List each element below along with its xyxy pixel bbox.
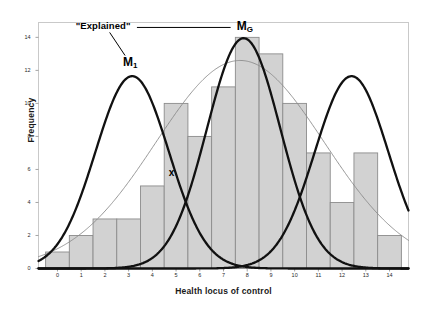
y-tick-label: 6 [15, 166, 31, 172]
histogram-bar [164, 103, 188, 268]
y-tick-label: 4 [15, 199, 31, 205]
x-tick-label: 4 [145, 272, 159, 278]
x-tick-label: 2 [98, 272, 112, 278]
y-tick-label: 10 [15, 100, 31, 106]
histogram-bar [140, 186, 164, 269]
mg-annotation-subscript: G [247, 25, 253, 34]
y-tick-label: 8 [15, 133, 31, 139]
x-tick-label: 7 [217, 272, 231, 278]
chart-canvas [0, 0, 428, 309]
x-tick-label: 14 [383, 272, 397, 278]
x-tick-label: 12 [335, 272, 349, 278]
x-tick-label: 0 [50, 272, 64, 278]
x-tick-label: 11 [311, 272, 325, 278]
histogram-bar [93, 219, 117, 269]
histogram-bar [330, 202, 354, 268]
chart-figure: Frequency Health locus of control 024681… [0, 0, 428, 309]
m1-annotation: M1 [123, 55, 137, 69]
explained-annotation: "Explained" [76, 20, 131, 31]
mg-annotation: MG [237, 19, 253, 33]
x-axis-label: Health locus of control [38, 286, 409, 296]
x-tick-label: 13 [359, 272, 373, 278]
y-axis-label: Frequency [26, 75, 36, 165]
histogram-bar [69, 235, 93, 268]
x-tick-label: 5 [169, 272, 183, 278]
mg-annotation-text: M [237, 19, 247, 33]
histogram-bar [117, 219, 141, 269]
x-marker-annotation: x [169, 167, 175, 178]
x-tick-label: 6 [193, 272, 207, 278]
x-tick-label: 9 [264, 272, 278, 278]
m1-annotation-text: M [123, 55, 133, 69]
histogram-bar [235, 37, 259, 268]
histogram-bar [378, 235, 402, 268]
y-tick-label: 14 [15, 34, 31, 40]
x-tick-label: 1 [74, 272, 88, 278]
histogram-bar [212, 87, 236, 269]
y-tick-label: 2 [15, 232, 31, 238]
x-tick-label: 10 [288, 272, 302, 278]
m1-annotation-subscript: 1 [133, 61, 137, 70]
histogram-bar [259, 54, 283, 269]
histogram-bar [354, 153, 378, 269]
y-tick-label: 12 [15, 67, 31, 73]
y-tick-label: 0 [15, 265, 31, 271]
x-tick-label: 8 [240, 272, 254, 278]
x-tick-label: 3 [122, 272, 136, 278]
